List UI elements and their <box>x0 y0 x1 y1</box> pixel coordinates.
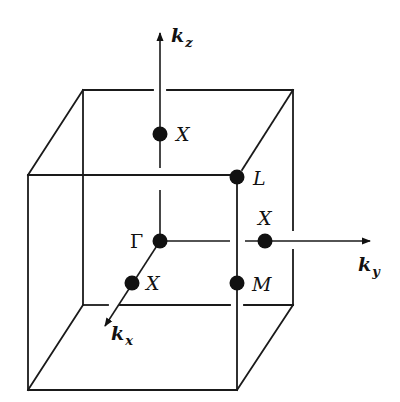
x-point-front-dot <box>125 276 140 291</box>
x-front-label: X <box>144 272 161 294</box>
bottom-right-depth-edge <box>237 305 293 390</box>
brillouin-zone-diagram: X L Γ X X M kz ky kx <box>0 0 400 402</box>
m-label: M <box>251 273 272 295</box>
m-point-dot <box>230 276 245 291</box>
top-right-depth-edge <box>242 90 293 170</box>
symmetry-points <box>125 127 273 291</box>
kz-label: kz <box>171 24 193 50</box>
gamma-label: Γ <box>130 230 143 252</box>
x-top-label: X <box>174 123 191 145</box>
x-right-label: X <box>256 207 273 229</box>
l-label: L <box>252 167 266 189</box>
kx-label: kx <box>111 322 133 348</box>
l-point-dot <box>230 170 245 185</box>
top-left-depth-edge <box>28 90 83 175</box>
x-point-right-dot <box>258 234 273 249</box>
x-point-top-dot <box>153 127 168 142</box>
bottom-left-depth-edge <box>28 305 83 390</box>
ky-label: ky <box>358 253 381 279</box>
gamma-point-dot <box>153 234 168 249</box>
labels: X L Γ X X M kz ky kx <box>111 24 381 348</box>
